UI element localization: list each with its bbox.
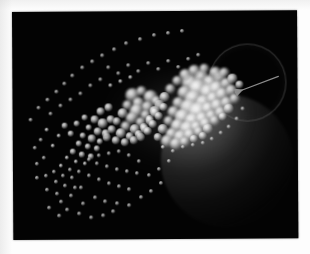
particle — [224, 104, 234, 114]
particle — [68, 168, 72, 172]
particle — [95, 161, 99, 165]
particle — [35, 176, 39, 180]
particle — [59, 104, 63, 108]
particle — [199, 132, 207, 140]
particle — [55, 192, 59, 196]
particle — [167, 159, 171, 163]
particle — [108, 83, 112, 87]
particle — [45, 188, 49, 192]
figure-plate — [12, 10, 298, 240]
particle — [87, 174, 91, 178]
particle — [73, 186, 77, 190]
particle — [71, 74, 75, 78]
particle — [45, 128, 49, 132]
particle — [88, 135, 95, 142]
particle — [55, 90, 59, 94]
particle — [69, 194, 73, 198]
particle — [112, 48, 116, 52]
particle — [96, 107, 104, 115]
figure-page — [0, 0, 310, 254]
particle — [127, 187, 131, 191]
particle — [176, 65, 180, 69]
particle — [152, 33, 156, 37]
particle — [127, 203, 131, 207]
particle — [80, 132, 86, 138]
particle-field — [12, 10, 297, 12]
particle — [135, 171, 139, 175]
particle — [130, 137, 137, 144]
particle — [102, 130, 110, 138]
particle — [83, 161, 87, 165]
particle — [147, 173, 151, 177]
particle — [100, 54, 104, 58]
particle — [230, 94, 240, 104]
particle — [49, 112, 53, 116]
particle — [105, 104, 113, 112]
particle — [77, 170, 81, 174]
particle — [191, 143, 195, 147]
particle — [56, 133, 61, 138]
particle — [159, 181, 163, 185]
particle — [54, 180, 58, 184]
particle — [85, 124, 92, 131]
particle — [144, 128, 151, 135]
particle — [94, 127, 102, 135]
particle — [139, 195, 143, 199]
particle — [65, 208, 69, 212]
particle — [116, 71, 120, 75]
particle — [61, 174, 65, 178]
particle — [74, 159, 79, 164]
particle — [106, 65, 110, 69]
particle — [63, 184, 67, 188]
particle — [107, 181, 111, 185]
particle — [196, 53, 200, 57]
particle — [157, 167, 161, 171]
particle — [117, 185, 121, 189]
particle — [115, 167, 119, 171]
particle — [50, 143, 55, 148]
particle — [52, 170, 56, 174]
particle — [59, 200, 63, 204]
particle — [137, 159, 141, 163]
particle — [94, 145, 100, 151]
particle — [124, 41, 128, 45]
particle — [63, 82, 67, 86]
particle — [77, 212, 81, 216]
particle — [166, 31, 170, 35]
particle — [181, 145, 185, 149]
particle — [78, 92, 82, 96]
particle — [138, 37, 142, 41]
particle — [79, 186, 83, 190]
particle — [46, 98, 50, 102]
particle — [235, 117, 239, 121]
particle — [33, 146, 37, 150]
particle — [70, 149, 76, 155]
particle — [127, 153, 131, 157]
particle — [97, 178, 101, 182]
particle — [97, 153, 101, 157]
particle — [98, 77, 102, 81]
particle — [125, 169, 129, 173]
particle — [90, 60, 94, 64]
particle — [227, 125, 231, 129]
particle — [74, 121, 80, 127]
particle — [35, 162, 39, 166]
particle — [87, 158, 91, 162]
particle — [82, 115, 88, 121]
particle — [58, 214, 61, 217]
particle — [121, 138, 129, 146]
particle — [101, 214, 105, 218]
particle — [96, 138, 103, 145]
particle — [126, 63, 130, 67]
particle — [111, 210, 115, 214]
particle — [44, 174, 48, 178]
particle — [64, 155, 69, 160]
particle — [103, 200, 107, 204]
particle — [166, 59, 170, 63]
particle — [70, 176, 74, 180]
particle — [76, 141, 82, 147]
particle — [47, 206, 50, 209]
particle — [180, 29, 184, 33]
particle — [89, 216, 93, 220]
particle — [88, 84, 92, 88]
